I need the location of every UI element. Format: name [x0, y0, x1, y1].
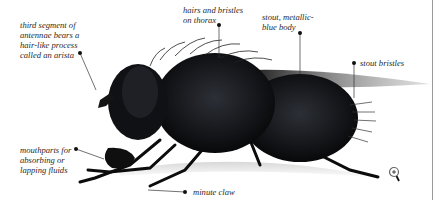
- eye: [122, 66, 158, 118]
- magnifier-plus-icon: [388, 166, 402, 184]
- label-body: stout, metallic- blue body: [262, 12, 314, 32]
- label-thorax-hairs: hairs and bristles on thorax: [183, 5, 243, 25]
- dot-mouthparts: [74, 147, 78, 151]
- label-stout-bristles: stout bristles: [360, 58, 404, 68]
- label-minute-claw: minute claw: [193, 187, 235, 197]
- label-mouthparts: mouthparts for absorbing or lapping flui…: [20, 145, 71, 175]
- dot-claw: [183, 190, 187, 194]
- label-arista: third segment of antennae bears a hair-l…: [20, 20, 79, 60]
- zoom-button[interactable]: [388, 166, 402, 184]
- thorax: [155, 53, 275, 153]
- dot-bristles: [352, 61, 356, 65]
- page-edge-rule: [432, 0, 433, 200]
